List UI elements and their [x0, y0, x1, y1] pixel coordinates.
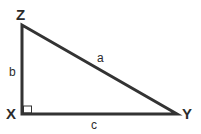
right-angle-marker	[24, 106, 32, 113]
side-label-b: b	[9, 65, 16, 79]
vertex-label-y: Y	[182, 105, 192, 122]
side-label-c: c	[91, 118, 97, 132]
triangle-xyz	[22, 25, 177, 114]
side-label-a: a	[97, 51, 104, 65]
vertex-label-x: X	[6, 105, 16, 122]
triangle-diagram: Z X Y b a c	[0, 0, 201, 134]
vertex-label-z: Z	[16, 6, 25, 23]
